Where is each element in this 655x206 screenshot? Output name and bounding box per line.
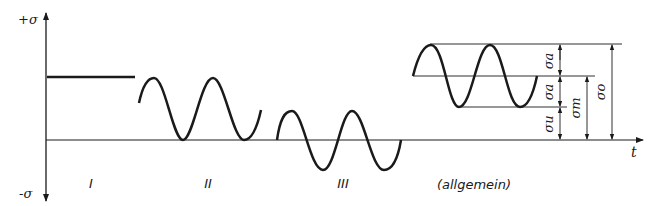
case-III-label: III [337, 176, 349, 191]
pulsating-wave [139, 78, 261, 140]
case-I-label: I [89, 176, 93, 191]
y-axis-positive-label: +σ [18, 12, 39, 27]
case-general-label: (allgemein) [437, 177, 511, 192]
stress-time-diagram: +σ -σ t I II III σa σa σu σm σo [0, 0, 655, 206]
sigma-a-upper-label: σa [541, 53, 556, 70]
case-II-label: II [204, 176, 212, 191]
sigma-m-label: σm [568, 97, 583, 118]
y-axis-negative-label: -σ [19, 186, 33, 201]
general-case [413, 44, 622, 139]
sigma-o-label: σo [593, 83, 608, 100]
sigma-a-lower-label: σa [541, 84, 556, 101]
time-axis-label: t [631, 144, 637, 160]
sigma-u-label: σu [541, 115, 556, 132]
